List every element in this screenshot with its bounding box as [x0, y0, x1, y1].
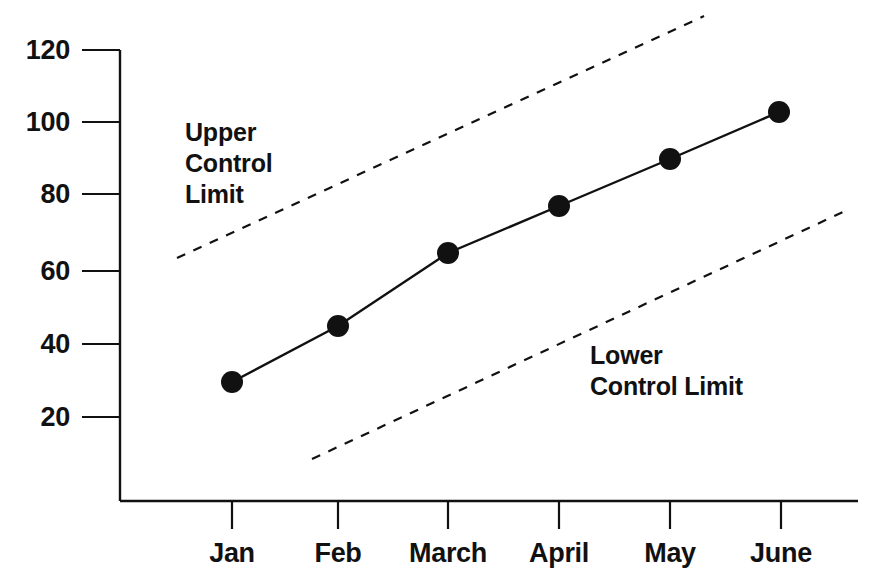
lower-control-limit-label: Lower Control Limit [590, 340, 743, 402]
ucl-label-line-1: Upper [185, 117, 272, 148]
chart-plot-area [0, 0, 869, 578]
x-tick-label-june: June [750, 540, 812, 567]
x-tick-label-jan: Jan [209, 540, 255, 567]
y-tick-label-120: 120 [0, 37, 70, 64]
data-point-may[interactable] [659, 148, 681, 170]
y-tick-label-20: 20 [0, 404, 70, 431]
ucl-label-line-2: Control [185, 148, 272, 179]
data-point-june[interactable] [768, 101, 790, 123]
ucl-label-line-3: Limit [185, 179, 272, 210]
lcl-label-line-1: Lower [590, 340, 743, 371]
x-tick-label-march: March [409, 540, 487, 567]
control-chart: 120 100 80 60 40 20 Jan Feb March April … [0, 0, 869, 578]
data-point-feb[interactable] [327, 315, 349, 337]
y-tick-label-80: 80 [0, 181, 70, 208]
data-point-april[interactable] [548, 195, 570, 217]
y-tick-label-60: 60 [0, 258, 70, 285]
x-tick-label-april: April [529, 540, 589, 567]
data-point-jan[interactable] [221, 371, 243, 393]
y-axis-ticks [82, 50, 120, 417]
data-point-march[interactable] [437, 242, 459, 264]
y-tick-label-100: 100 [0, 109, 70, 136]
lcl-label-line-2: Control Limit [590, 371, 743, 402]
x-tick-label-may: May [644, 540, 696, 567]
y-tick-label-40: 40 [0, 331, 70, 358]
x-tick-label-feb: Feb [314, 540, 361, 567]
x-axis-ticks [232, 501, 781, 529]
lower-control-limit-line [312, 212, 843, 459]
upper-control-limit-label: Upper Control Limit [185, 117, 272, 209]
